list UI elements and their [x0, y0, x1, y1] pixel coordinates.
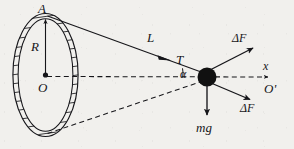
tension-direction-arrowhead — [158, 55, 172, 60]
delta-force-upper-arrow — [210, 48, 253, 70]
label-length-L: L — [147, 31, 154, 44]
diagram-vector-canvas — [0, 0, 294, 149]
label-apex-A: A — [38, 2, 46, 15]
label-delta-force-upper: ΔF — [232, 32, 246, 44]
label-origin-prime: O' — [264, 82, 276, 95]
ring-hatching — [4, 10, 92, 149]
x-axis-dashed-line — [47, 77, 268, 78]
label-radius-R: R — [31, 40, 39, 53]
label-center-O: O — [38, 81, 47, 94]
label-tension-T: T — [176, 53, 183, 66]
physics-diagram-figure: A R O L T α ΔF ΔF x O' mg — [0, 0, 294, 149]
lower-generatrix-dashed-line — [48, 81, 204, 134]
ring-hoop — [4, 10, 92, 149]
delta-force-lower-arrow — [211, 83, 250, 100]
label-angle-alpha: α — [180, 68, 186, 80]
label-weight-mg: mg — [196, 121, 212, 134]
label-axis-x: x — [263, 60, 268, 72]
label-delta-force-lower: ΔF — [240, 102, 254, 114]
